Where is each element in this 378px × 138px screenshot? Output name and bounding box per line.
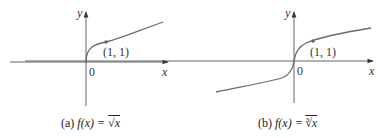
cbrt-curve: [216, 28, 371, 92]
caption-a: (a) f(x) = √x: [61, 116, 120, 131]
graph-sqrt: y x 0 (1, 1): [10, 6, 168, 106]
caption-b: (b) f(x) = 3√x: [258, 116, 317, 131]
origin-label: 0: [297, 64, 303, 78]
caption-function: f(x) =: [77, 116, 108, 130]
y-axis-label: y: [76, 6, 83, 20]
x-axis-label: x: [161, 65, 168, 79]
caption-function: f(x) =: [275, 116, 306, 130]
point-1-1: [311, 39, 315, 43]
figure-canvas: y x 0 (1, 1) y x 0 (1, 1): [0, 0, 378, 138]
caption-radical: √x: [305, 116, 317, 130]
point-1-1: [104, 40, 108, 44]
point-label: (1, 1): [103, 45, 129, 59]
caption-label: (a): [61, 116, 74, 130]
caption-radical: √x: [108, 116, 120, 130]
y-axis-label: y: [284, 6, 291, 20]
x-axis-label: x: [368, 64, 375, 78]
origin-label: 0: [89, 65, 95, 79]
caption-label: (b): [258, 116, 272, 130]
point-label: (1, 1): [310, 45, 336, 59]
graph-cbrt: y x 0 (1, 1): [25, 6, 375, 103]
